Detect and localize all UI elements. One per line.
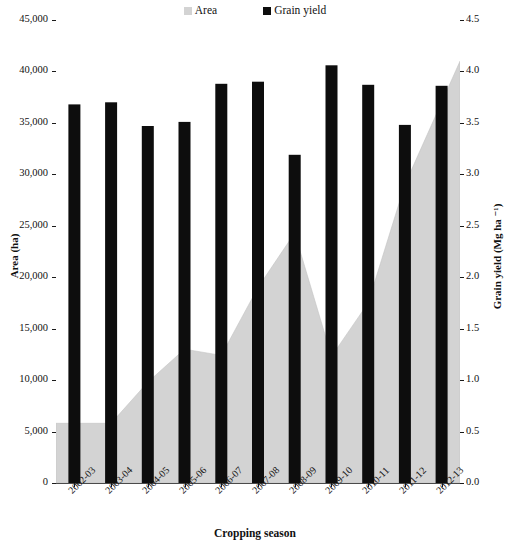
x-axis-tick-mark: [258, 483, 259, 487]
y-axis-right-tick-mark: [460, 20, 464, 21]
legend-item-grain-yield: Grain yield: [263, 5, 326, 17]
x-axis-tick-mark: [111, 483, 112, 487]
x-axis-tick-mark: [405, 483, 406, 487]
y-axis-left-tick: 10,000: [19, 374, 48, 385]
y-axis-right-tick: 2.0: [466, 271, 479, 282]
y-axis-right-tick-mark: [460, 380, 464, 381]
plot-svg: [56, 20, 460, 483]
x-axis-tick-mark: [368, 483, 369, 487]
y-axis-right-tick-mark: [460, 226, 464, 227]
x-axis-tick-mark: [74, 483, 75, 487]
y-axis-right-tick: 1.0: [466, 374, 479, 385]
grain-yield-bar: [215, 84, 227, 483]
y-axis-left-tick: 5,000: [24, 426, 48, 437]
legend-label-grain-yield: Grain yield: [274, 5, 326, 17]
y-axis-right-tick-mark: [460, 277, 464, 278]
y-axis-right-tick-mark: [460, 174, 464, 175]
y-axis-right-tick: 4.0: [466, 65, 479, 76]
y-axis-right-tick: 2.5: [466, 220, 479, 231]
x-axis-tick-mark: [185, 483, 186, 487]
y-axis-left-tick: 25,000: [19, 220, 48, 231]
x-axis-tick-mark: [442, 483, 443, 487]
chart-figure: Area Grain yield Area (ha) Grain yield (…: [0, 0, 510, 547]
x-axis-tick-mark: [148, 483, 149, 487]
chart-legend: Area Grain yield: [0, 2, 510, 20]
y-axis-right-tick: 3.0: [466, 168, 479, 179]
y-axis-left-tick: 0: [43, 477, 48, 488]
y-axis-right-tick-mark: [460, 329, 464, 330]
y-axis-right-tick: 4.5: [466, 14, 479, 25]
grain-yield-bar: [142, 126, 154, 483]
grain-yield-bar: [399, 125, 411, 483]
y-axis-right-tick-mark: [460, 432, 464, 433]
y-axis-right-title: Grain yield (Mg ha ⁻¹): [491, 172, 504, 342]
grain-yield-bar: [179, 122, 191, 483]
y-axis-left-tick: 15,000: [19, 323, 48, 334]
legend-label-area: Area: [195, 5, 217, 17]
grain-yield-bar: [252, 82, 264, 483]
y-axis-left-tick: 30,000: [19, 168, 48, 179]
legend-item-area: Area: [184, 5, 217, 17]
y-axis-right-tick: 3.5: [466, 117, 479, 128]
y-axis-left-tick: 35,000: [19, 117, 48, 128]
plot-area: [56, 20, 460, 483]
y-axis-right-tick-mark: [460, 483, 464, 484]
x-axis-title: Cropping season: [0, 527, 510, 539]
y-axis-left-tick: 20,000: [19, 271, 48, 282]
x-axis-tick-mark: [295, 483, 296, 487]
grain-yield-bar: [68, 104, 80, 483]
yield-swatch-icon: [263, 7, 271, 15]
area-swatch-icon: [184, 7, 192, 15]
grain-yield-bar: [105, 102, 117, 483]
grain-yield-bar: [362, 85, 374, 483]
grain-yield-bar: [436, 86, 448, 483]
x-axis-tick-mark: [331, 483, 332, 487]
y-axis-right-tick: 0.0: [466, 477, 479, 488]
x-axis-tick-mark: [221, 483, 222, 487]
y-axis-left-title: Area (ha): [8, 196, 20, 316]
y-axis-right-tick-mark: [460, 123, 464, 124]
y-axis-right-tick: 0.5: [466, 426, 479, 437]
y-axis-left-tick: 45,000: [19, 14, 48, 25]
y-axis-left-tick: 40,000: [19, 65, 48, 76]
grain-yield-bar: [289, 155, 301, 483]
y-axis-right-tick: 1.5: [466, 323, 479, 334]
y-axis-right-tick-mark: [460, 71, 464, 72]
grain-yield-bar: [326, 65, 338, 483]
